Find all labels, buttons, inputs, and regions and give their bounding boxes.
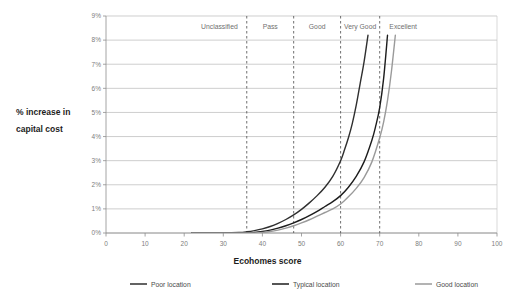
y-tick-label: 9% (92, 12, 102, 19)
y-tick-label: 2% (92, 181, 102, 188)
y-tick-label: 5% (92, 109, 102, 116)
legend-label[interactable]: Typical location (293, 281, 340, 289)
x-tick-label: 20 (181, 240, 189, 247)
band-label: Unclassified (201, 23, 238, 30)
x-tick-label: 50 (298, 240, 306, 247)
y-axis-title-line2: capital cost (16, 124, 63, 134)
y-tick-label: 1% (92, 205, 102, 212)
x-tick-label: 90 (454, 240, 462, 247)
y-axis-title-line1: % increase in (16, 107, 70, 117)
band-label: Very Good (344, 23, 376, 31)
plot-area (106, 16, 497, 233)
band-label: Good (309, 23, 326, 30)
y-axis-ticks: 0%1%2%3%4%5%6%7%8%9% (92, 12, 106, 236)
x-axis-title: Ecohomes score (233, 256, 301, 266)
y-tick-label: 3% (92, 157, 102, 164)
band-label: Pass (263, 23, 279, 30)
x-tick-label: 100 (492, 240, 503, 247)
y-tick-label: 0% (92, 229, 102, 236)
band-label: Excellent (389, 23, 417, 30)
y-tick-label: 4% (92, 133, 102, 140)
legend-label[interactable]: Poor location (151, 281, 191, 288)
x-tick-label: 60 (337, 240, 345, 247)
y-tick-label: 8% (92, 36, 102, 43)
x-tick-label: 30 (220, 240, 228, 247)
x-axis-ticks: 0102030405060708090100 (104, 233, 503, 247)
legend-label[interactable]: Good location (436, 281, 478, 288)
x-tick-label: 40 (259, 240, 267, 247)
x-tick-label: 0 (104, 240, 108, 247)
x-tick-label: 70 (376, 240, 384, 247)
chart-container: 0%1%2%3%4%5%6%7%8%9%01020304050607080901… (0, 0, 524, 304)
ecohomes-cost-chart: 0%1%2%3%4%5%6%7%8%9%01020304050607080901… (0, 0, 524, 304)
y-tick-label: 7% (92, 61, 102, 68)
x-tick-label: 10 (141, 240, 149, 247)
chart-legend: Poor locationTypical locationGood locati… (130, 281, 478, 289)
y-tick-label: 6% (92, 85, 102, 92)
x-tick-label: 80 (415, 240, 423, 247)
